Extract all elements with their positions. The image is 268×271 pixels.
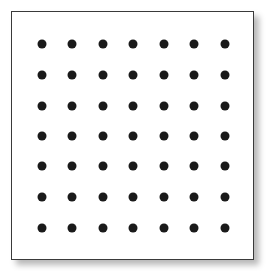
grid-dot bbox=[160, 224, 169, 233]
grid-dot bbox=[99, 71, 108, 80]
grid-dot bbox=[99, 162, 108, 171]
grid-dot bbox=[221, 224, 230, 233]
grid-dot bbox=[190, 162, 199, 171]
grid-dot bbox=[38, 102, 47, 111]
grid-dot bbox=[38, 132, 47, 141]
grid-dot bbox=[129, 71, 138, 80]
grid-dot bbox=[221, 102, 230, 111]
grid-dot bbox=[68, 162, 77, 171]
grid-dot bbox=[160, 132, 169, 141]
grid-dot bbox=[190, 102, 199, 111]
grid-dot bbox=[190, 40, 199, 49]
grid-dot bbox=[38, 162, 47, 171]
grid-dot bbox=[190, 193, 199, 202]
grid-dot bbox=[129, 224, 138, 233]
grid-dot bbox=[129, 40, 138, 49]
grid-dot bbox=[38, 193, 47, 202]
grid-dot bbox=[68, 40, 77, 49]
grid-dot bbox=[99, 193, 108, 202]
grid-dot bbox=[221, 132, 230, 141]
grid-dot bbox=[190, 132, 199, 141]
grid-dot bbox=[221, 162, 230, 171]
grid-dot bbox=[129, 102, 138, 111]
grid-dot bbox=[68, 132, 77, 141]
grid-dot bbox=[68, 71, 77, 80]
grid-dot bbox=[221, 71, 230, 80]
grid-dot bbox=[129, 193, 138, 202]
grid-dot bbox=[68, 224, 77, 233]
grid-dot bbox=[38, 40, 47, 49]
grid-dot bbox=[190, 71, 199, 80]
grid-dot bbox=[129, 132, 138, 141]
grid-dot bbox=[38, 71, 47, 80]
grid-dot bbox=[99, 224, 108, 233]
grid-dot bbox=[160, 40, 169, 49]
grid-dot bbox=[160, 162, 169, 171]
grid-dot bbox=[38, 224, 47, 233]
grid-dot bbox=[221, 193, 230, 202]
grid-dot bbox=[99, 102, 108, 111]
grid-dot bbox=[160, 71, 169, 80]
grid-dot bbox=[68, 102, 77, 111]
grid-dot bbox=[68, 193, 77, 202]
grid-dot bbox=[160, 102, 169, 111]
grid-dot bbox=[129, 162, 138, 171]
grid-dot bbox=[221, 40, 230, 49]
grid-dot bbox=[190, 224, 199, 233]
grid-dot bbox=[99, 40, 108, 49]
grid-dot bbox=[160, 193, 169, 202]
grid-dot bbox=[99, 132, 108, 141]
